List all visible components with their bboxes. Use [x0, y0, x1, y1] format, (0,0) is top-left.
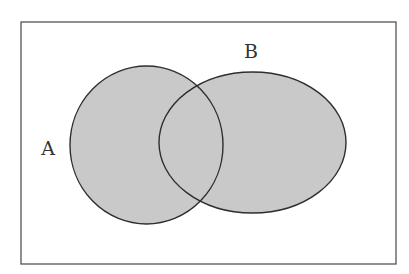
- set-a-label: A: [40, 137, 55, 159]
- union-shading: [70, 66, 346, 224]
- set-b-label: B: [244, 40, 258, 62]
- venn-diagram: A B: [0, 0, 409, 274]
- set-b-fill: [159, 72, 346, 213]
